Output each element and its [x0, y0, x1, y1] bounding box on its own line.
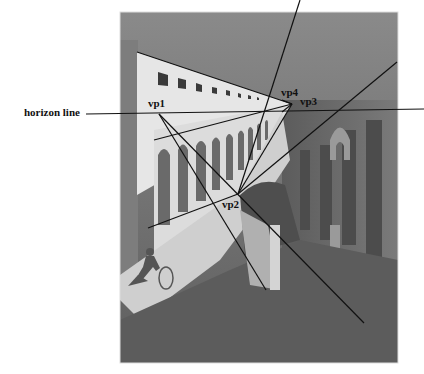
horizon-label: horizon line [24, 107, 80, 118]
figure: horizon line vp1 vp2 vp3 vp4 [0, 0, 424, 374]
vp1-label: vp1 [148, 98, 165, 109]
vp2-label: vp2 [222, 199, 239, 210]
painting [120, 12, 398, 363]
vp3-label: vp3 [300, 96, 317, 107]
vp4-label: vp4 [281, 87, 298, 98]
wagon-side [270, 225, 280, 290]
wall-edge [120, 40, 138, 290]
painting-svg [0, 0, 424, 374]
